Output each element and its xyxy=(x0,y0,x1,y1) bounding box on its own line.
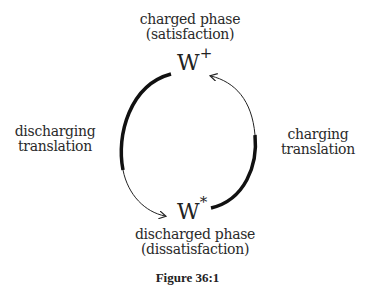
charging-translation-label: charging translation xyxy=(268,127,368,157)
discharged-phase-label: discharged phase (dissatisfaction) xyxy=(120,227,270,257)
node-w-star: W* xyxy=(177,197,207,224)
discharging-arrow xyxy=(121,74,171,170)
charging-arrow xyxy=(211,135,255,208)
figure-caption: Figure 36:1 xyxy=(0,270,375,286)
discharging-translation-label: discharging translation xyxy=(0,124,110,154)
